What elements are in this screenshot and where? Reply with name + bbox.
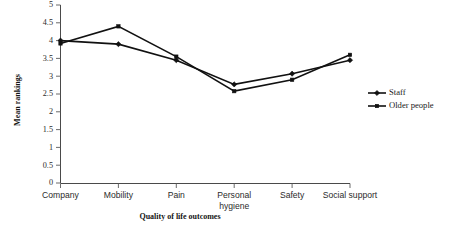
- diamond-icon: [374, 90, 379, 95]
- series-line-staff: [61, 41, 351, 85]
- y-tick-label: 2: [49, 107, 53, 116]
- diamond-icon: [290, 71, 295, 76]
- square-icon: [233, 89, 236, 92]
- square-icon: [59, 42, 62, 45]
- y-tick-label: 0.5: [43, 161, 53, 170]
- line-chart-canvas: Mean rankings 00.511.522.533.544.55 Comp…: [0, 0, 455, 240]
- diamond-icon: [232, 82, 237, 87]
- diamond-icon: [347, 58, 352, 63]
- square-icon: [117, 25, 120, 28]
- x-tick-label: Pain: [168, 190, 185, 200]
- square-icon: [348, 53, 351, 56]
- x-tick-label: Personal: [217, 190, 251, 200]
- legend-label: Older people: [389, 100, 434, 110]
- y-tick-label: 3: [49, 72, 53, 81]
- square-icon: [175, 55, 178, 58]
- y-axis-ticks: 00.511.522.533.544.55: [43, 0, 61, 187]
- chart-legend: StaffOlder people: [368, 87, 434, 110]
- y-tick-label: 3.5: [43, 54, 53, 63]
- series-line-older-people: [61, 26, 351, 91]
- x-tick-label: Company: [42, 190, 79, 200]
- y-tick-label: 2.5: [43, 89, 53, 98]
- y-tick-label: 0: [49, 178, 53, 187]
- y-axis-title: Mean rankings: [13, 74, 22, 126]
- y-tick-label: 1.5: [43, 125, 53, 134]
- data-series-group: [58, 25, 353, 93]
- square-icon: [290, 78, 293, 81]
- y-tick-label: 4: [49, 36, 53, 45]
- square-icon: [375, 104, 378, 107]
- diamond-icon: [116, 42, 121, 47]
- x-axis-ticks: CompanyMobilityPainPersonalhygieneSafety…: [42, 184, 378, 212]
- x-tick-label: hygiene: [219, 201, 249, 211]
- x-axis-title: Quality of life outcomes: [139, 212, 220, 221]
- x-tick-label: Mobility: [104, 190, 134, 200]
- legend-label: Staff: [389, 87, 406, 97]
- chart-figure: Mean rankings 00.511.522.533.544.55 Comp…: [0, 0, 455, 240]
- y-tick-label: 5: [49, 0, 53, 9]
- y-tick-label: 1: [49, 143, 53, 152]
- x-tick-label: Social support: [323, 190, 378, 200]
- x-tick-label: Safety: [280, 190, 305, 200]
- y-tick-label: 4.5: [43, 18, 53, 27]
